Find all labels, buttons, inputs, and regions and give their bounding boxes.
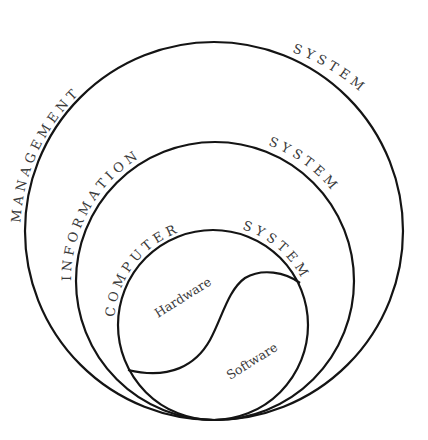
information-system-label: S Y S T E M — [267, 134, 340, 192]
computer-system-circle — [118, 230, 308, 420]
diagram-canvas: M A N A G E M E N T S Y S T E M I N F O … — [0, 0, 428, 440]
management-system-label: S Y S T E M — [291, 41, 367, 94]
computer-system-label: S Y S T E M — [241, 218, 312, 280]
nested-systems-diagram: M A N A G E M E N T S Y S T E M I N F O … — [0, 0, 428, 440]
management-label: M A N A G E M E N T — [8, 86, 80, 223]
hardware-label: Hardware — [152, 274, 214, 321]
software-label: Software — [224, 339, 281, 382]
hardware-software-divider — [128, 272, 300, 373]
